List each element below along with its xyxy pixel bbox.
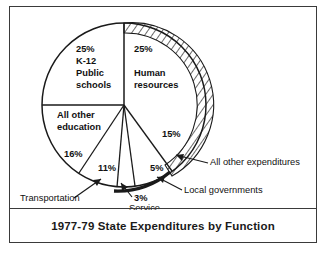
pie-chart-svg bbox=[10, 7, 316, 210]
slice-label-transportation-pct: 11% bbox=[98, 163, 116, 175]
divider-transportation-service bbox=[117, 105, 124, 187]
leader-local-governments bbox=[157, 176, 182, 190]
slice-label-human-line2: resources bbox=[134, 80, 178, 92]
caption-bar: 1977-79 State Expenditures by Function bbox=[10, 208, 316, 242]
slice-label-k12-pct: 25% bbox=[76, 44, 95, 56]
slice-label-k12-line2: Public bbox=[76, 68, 104, 80]
callout-transportation: Transportation bbox=[20, 193, 80, 205]
slice-label-other-education-line1: All other bbox=[57, 110, 95, 122]
callout-local-governments: Local governments bbox=[184, 185, 263, 197]
slice-label-human-pct: 25% bbox=[134, 44, 153, 56]
slice-label-k12-line1: K-12 bbox=[76, 56, 96, 68]
slice-label-human-line1: Human bbox=[134, 68, 166, 80]
slice-label-other-education-line2: education bbox=[57, 122, 101, 134]
slice-label-other-expenditures-pct: 15% bbox=[162, 129, 181, 141]
chart-caption: 1977-79 State Expenditures by Function bbox=[51, 220, 275, 232]
slice-label-k12-line3: schools bbox=[76, 80, 111, 92]
slice-label-other-education-pct: 16% bbox=[64, 149, 83, 161]
figure-frame: 25% K-12 Public schools 25% Human resour… bbox=[9, 6, 317, 243]
pie-chart-plot: 25% K-12 Public schools 25% Human resour… bbox=[10, 7, 316, 210]
slice-label-local-pct: 5% bbox=[150, 163, 163, 175]
callout-all-other-expenditures: All other expenditures bbox=[210, 157, 300, 169]
